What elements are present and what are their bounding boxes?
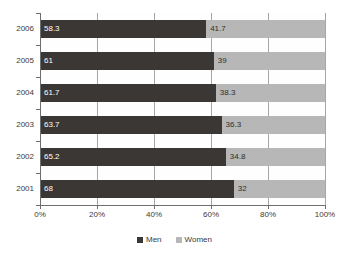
bar-value-label: 61	[40, 57, 53, 65]
legend-label: Men	[146, 236, 162, 244]
bar-value-label: 39	[214, 57, 227, 65]
x-tick-label-80%: 80%	[260, 211, 276, 219]
bar-value-label: 32	[234, 185, 247, 193]
bar-row: 63.736.3	[40, 116, 325, 134]
x-tick	[40, 205, 41, 209]
legend-swatch-icon	[176, 237, 182, 243]
category-label-2003: 2003	[0, 121, 34, 129]
gridline-100	[325, 13, 326, 205]
plot-area: 58.341.7613961.738.363.736.365.234.86832	[40, 13, 325, 205]
bar-value-label: 34.8	[226, 153, 246, 161]
gridline-60	[211, 13, 212, 205]
bar-value-label: 65.2	[40, 153, 60, 161]
chart-legend: MenWomen	[0, 236, 349, 244]
x-tick	[97, 205, 98, 209]
x-tick-label-40%: 40%	[146, 211, 162, 219]
category-label-2004: 2004	[0, 89, 34, 97]
bar-value-label: 68	[40, 185, 53, 193]
category-label-2006: 2006	[0, 25, 34, 33]
gridline-20	[97, 13, 98, 205]
x-tick	[211, 205, 212, 209]
x-tick-label-20%: 20%	[89, 211, 105, 219]
bar-value-label: 38.3	[216, 89, 236, 97]
bar-value-label: 61.7	[40, 89, 60, 97]
category-label-2001: 2001	[0, 185, 34, 193]
y-axis-line	[40, 13, 41, 206]
x-tick-label-100%: 100%	[315, 211, 335, 219]
bar-segment-men: 61	[40, 52, 214, 70]
category-label-2002: 2002	[0, 153, 34, 161]
x-tick	[325, 205, 326, 209]
y-tick	[36, 13, 40, 14]
category-label-2005: 2005	[0, 57, 34, 65]
bar-row: 65.234.8	[40, 148, 325, 166]
bar-value-label: 41.7	[206, 25, 226, 33]
bar-value-label: 58.3	[40, 25, 60, 33]
bar-segment-women: 36.3	[222, 116, 325, 134]
bar-value-label: 63.7	[40, 121, 60, 129]
bar-segment-men: 61.7	[40, 84, 216, 102]
stacked-bar-chart: 58.341.7613961.738.363.736.365.234.86832…	[0, 0, 349, 264]
bar-segment-men: 63.7	[40, 116, 222, 134]
y-tick	[36, 77, 40, 78]
bar-segment-women: 38.3	[216, 84, 325, 102]
bar-segment-men: 65.2	[40, 148, 226, 166]
x-tick-label-60%: 60%	[203, 211, 219, 219]
gridline-80	[268, 13, 269, 205]
bar-row: 61.738.3	[40, 84, 325, 102]
bar-segment-men: 58.3	[40, 20, 206, 38]
legend-label: Women	[185, 236, 212, 244]
x-tick-label-0%: 0%	[34, 211, 46, 219]
legend-swatch-icon	[137, 237, 143, 243]
y-tick	[36, 45, 40, 46]
legend-item-men[interactable]: Men	[137, 236, 162, 244]
bar-segment-women: 41.7	[206, 20, 325, 38]
bar-segment-men: 68	[40, 180, 234, 198]
bar-row: 6139	[40, 52, 325, 70]
x-tick	[154, 205, 155, 209]
bar-row: 58.341.7	[40, 20, 325, 38]
bar-value-label: 36.3	[222, 121, 242, 129]
x-axis-line	[40, 205, 326, 206]
bar-segment-women: 39	[214, 52, 325, 70]
bar-segment-women: 32	[234, 180, 325, 198]
y-tick	[36, 109, 40, 110]
y-tick	[36, 173, 40, 174]
legend-item-women[interactable]: Women	[176, 236, 212, 244]
y-tick	[36, 141, 40, 142]
x-tick	[268, 205, 269, 209]
bar-row: 6832	[40, 180, 325, 198]
bar-segment-women: 34.8	[226, 148, 325, 166]
gridline-40	[154, 13, 155, 205]
plot-background	[40, 13, 325, 205]
